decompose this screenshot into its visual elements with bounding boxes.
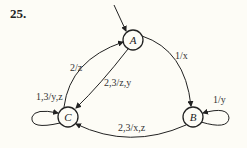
label-a-to-b: 1/x bbox=[175, 50, 188, 61]
label-b-loop: 1/y bbox=[213, 94, 226, 105]
edge-c-loop bbox=[32, 111, 60, 125]
label-a-to-c: 2,3/z,y bbox=[104, 77, 131, 88]
edge-b-loop bbox=[201, 110, 229, 125]
state-b: B bbox=[183, 107, 203, 127]
state-diagram: A C B 1/x 2,3/z,y 2/z 1,3/y,z 1/y 2,3/x,… bbox=[0, 0, 247, 148]
svg-text:A: A bbox=[129, 34, 137, 46]
edge-a-to-b bbox=[142, 36, 191, 106]
label-c-to-a: 2/z bbox=[70, 62, 83, 73]
state-a: A bbox=[123, 30, 143, 50]
state-c: C bbox=[58, 107, 78, 127]
start-arrow bbox=[114, 5, 126, 31]
svg-text:B: B bbox=[190, 111, 197, 123]
edge-c-to-a bbox=[64, 42, 123, 107]
label-b-to-c: 2,3/x,z bbox=[118, 122, 146, 133]
label-c-loop: 1,3/y,z bbox=[36, 91, 63, 102]
svg-text:C: C bbox=[64, 111, 72, 123]
